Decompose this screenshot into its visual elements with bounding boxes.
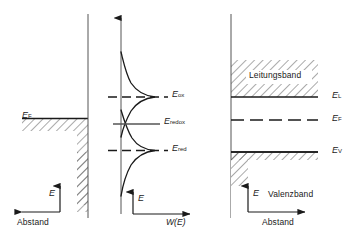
redox-distribution-panel: [108, 18, 190, 214]
right-panel-y-axis-label: E: [253, 189, 259, 198]
conduction-band-edge-label: EL: [332, 91, 341, 100]
left-panel-x-axis-label: Abstand: [17, 218, 49, 227]
left-panel-y-axis-label: E: [49, 189, 55, 198]
middle-panel-x-axis-label: W(E): [166, 218, 186, 227]
reduced-species-distribution-curve: [121, 110, 155, 196]
leitungsband-label: Leitungsband: [249, 71, 301, 80]
e-redox-label: Eredox: [164, 117, 185, 126]
semiconductor-band-panel: [231, 14, 323, 218]
metal-fermi-level-label: EF: [22, 111, 32, 120]
valenzband-label: Valenzband: [268, 190, 313, 199]
semiconductor-fermi-level-label: EF: [332, 114, 342, 123]
metal-hatch-lower: [77, 119, 88, 205]
right-panel-x-axis-label: Abstand: [262, 218, 294, 227]
valence-band-hatch-left-remnant: [231, 152, 248, 186]
middle-panel-y-axis-label: E: [138, 194, 144, 203]
metal-hatch-mask: [22, 131, 77, 212]
valence-band-edge-label: EV: [332, 146, 342, 155]
e-ox-label: Eox: [172, 90, 184, 99]
e-red-label: Ered: [172, 144, 187, 153]
